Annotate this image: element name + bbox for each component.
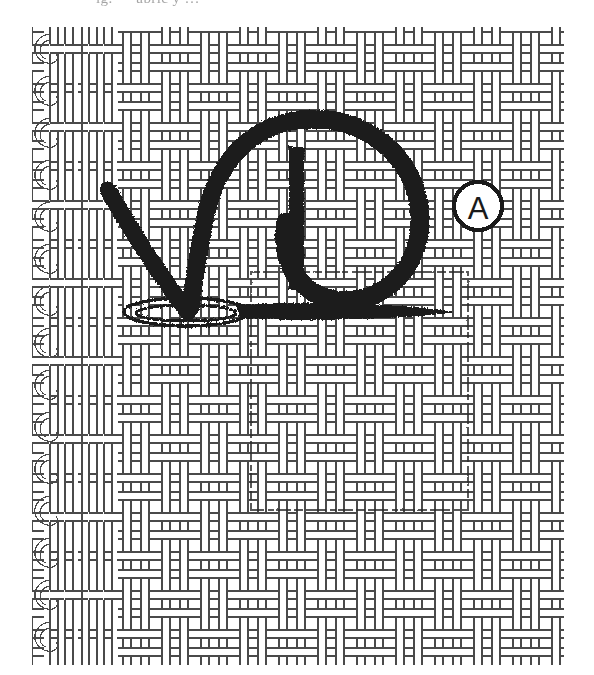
illustration-canvas: ig. — abric y …: [0, 0, 594, 675]
ghost-rectangle-hit[interactable]: [251, 272, 468, 510]
selvedge-edge-region[interactable]: [28, 27, 68, 665]
callout-a-hit[interactable]: [454, 182, 502, 230]
